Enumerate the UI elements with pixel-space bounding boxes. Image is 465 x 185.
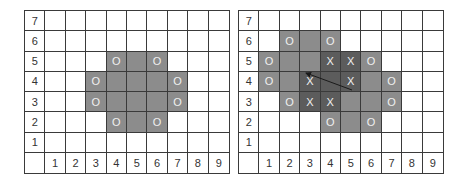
o-mark-cell: O xyxy=(107,112,127,132)
grid-cell xyxy=(45,112,65,132)
grid-cell xyxy=(107,31,127,51)
col-label: 2 xyxy=(66,153,86,173)
o-mark-cell: O xyxy=(168,92,188,112)
grid-cell xyxy=(280,133,300,153)
x-mark-cell: X xyxy=(300,92,320,112)
grid-cell xyxy=(402,133,422,153)
x-mark-cell: X xyxy=(321,92,341,112)
o-mark-cell: O xyxy=(321,31,341,51)
row-label: 6 xyxy=(239,31,259,51)
col-label: 2 xyxy=(280,153,300,173)
grid-cell xyxy=(188,112,208,132)
grid-cell xyxy=(402,112,422,132)
grid-cell xyxy=(423,92,443,112)
x-mark-cell: X xyxy=(341,52,361,72)
o-mark-cell: O xyxy=(86,72,106,92)
o-mark-cell: O xyxy=(86,92,106,112)
grid-cell xyxy=(423,133,443,153)
grid-cell xyxy=(107,133,127,153)
grid-cell xyxy=(209,133,229,153)
shaded-cell xyxy=(361,92,381,112)
o-mark-cell: O xyxy=(361,112,381,132)
col-label: 9 xyxy=(423,153,443,173)
shaded-cell xyxy=(361,72,381,92)
grid-cell xyxy=(280,11,300,31)
grid-cell xyxy=(127,133,147,153)
row-label: 5 xyxy=(239,52,259,72)
grid-cell xyxy=(402,11,422,31)
col-label: 1 xyxy=(259,153,279,173)
grid-cell xyxy=(168,133,188,153)
grid-cell xyxy=(66,72,86,92)
shaded-cell xyxy=(147,72,167,92)
col-label: 6 xyxy=(147,153,167,173)
grid-cell xyxy=(402,31,422,51)
shaded-cell xyxy=(127,52,147,72)
col-label: 7 xyxy=(382,153,402,173)
grid-cell xyxy=(402,52,422,72)
grid-cell xyxy=(188,31,208,51)
grid-cell xyxy=(341,133,361,153)
grid-cell xyxy=(300,112,320,132)
col-label: 7 xyxy=(168,153,188,173)
shaded-cell xyxy=(107,92,127,112)
shaded-cell xyxy=(300,52,320,72)
grid-cell xyxy=(341,11,361,31)
grid-cell xyxy=(382,133,402,153)
grid-cell xyxy=(259,31,279,51)
o-mark-cell: O xyxy=(259,72,279,92)
grid-cell xyxy=(300,11,320,31)
o-mark-cell: O xyxy=(361,52,381,72)
grid-cell xyxy=(361,133,381,153)
grid-cell xyxy=(168,112,188,132)
grid-cell xyxy=(45,92,65,112)
shaded-cell xyxy=(107,72,127,92)
grid-cell xyxy=(259,11,279,31)
right-grid: 76OO5OXXO4OXXO3OXXO2OO1123456789 xyxy=(238,10,444,174)
row-label: 3 xyxy=(25,92,45,112)
grid-cell xyxy=(188,52,208,72)
o-mark-cell: O xyxy=(280,92,300,112)
grid-cell xyxy=(86,31,106,51)
shaded-cell xyxy=(127,112,147,132)
grid-cell xyxy=(66,112,86,132)
row-label: 7 xyxy=(239,11,259,31)
grid-cell xyxy=(66,92,86,112)
grid-cell xyxy=(66,31,86,51)
grid-cell xyxy=(321,11,341,31)
grid-cell xyxy=(259,112,279,132)
row-label: 4 xyxy=(25,72,45,92)
grid-cell xyxy=(188,92,208,112)
grid-cell xyxy=(66,11,86,31)
grid-cell xyxy=(86,52,106,72)
grid-cell xyxy=(423,31,443,51)
grid-cell xyxy=(45,52,65,72)
row-label: 2 xyxy=(25,112,45,132)
row-label: 4 xyxy=(239,72,259,92)
grid-cell xyxy=(86,133,106,153)
grid-cell xyxy=(423,112,443,132)
grid-cell xyxy=(209,72,229,92)
grid-cell xyxy=(45,11,65,31)
shaded-cell xyxy=(147,92,167,112)
col-label: 8 xyxy=(402,153,422,173)
shaded-cell xyxy=(127,72,147,92)
grid-cell xyxy=(361,11,381,31)
o-mark-cell: O xyxy=(147,112,167,132)
shaded-cell xyxy=(280,52,300,72)
o-mark-cell: O xyxy=(321,112,341,132)
row-label: 2 xyxy=(239,112,259,132)
o-mark-cell: O xyxy=(147,52,167,72)
grid-cell xyxy=(86,112,106,132)
o-mark-cell: O xyxy=(280,31,300,51)
col-label: 5 xyxy=(341,153,361,173)
grid-cell xyxy=(66,133,86,153)
grid-cell xyxy=(147,133,167,153)
grid-cell xyxy=(382,52,402,72)
grid-cell xyxy=(259,92,279,112)
grid-cell xyxy=(423,72,443,92)
col-label: 4 xyxy=(321,153,341,173)
grid-cell xyxy=(341,31,361,51)
grid-cell xyxy=(382,112,402,132)
shaded-cell xyxy=(321,72,341,92)
